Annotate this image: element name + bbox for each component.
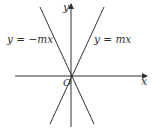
diagram-canvas: y x O y = −mx y = mx — [0, 0, 154, 133]
line-negative-slope — [40, 7, 94, 124]
y-axis-label: y — [62, 1, 70, 14]
line-label-negative-slope: y = −mx — [6, 33, 53, 45]
line-label-positive-slope: y = mx — [93, 33, 131, 45]
origin-label: O — [63, 77, 71, 88]
line-positive-slope — [50, 7, 104, 124]
x-axis-label: x — [141, 75, 148, 88]
